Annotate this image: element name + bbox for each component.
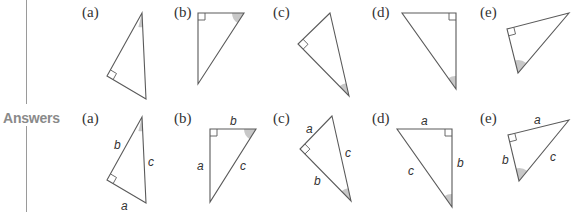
answer-d-side-c: c (408, 164, 414, 178)
answer-e-side-c: c (550, 150, 556, 164)
answer-c-side-a: a (306, 122, 313, 136)
triangle-question-e (507, 13, 569, 73)
answer-d-side-b: b (457, 156, 464, 170)
triangle-question-b (198, 13, 244, 84)
triangle-question-d (402, 13, 456, 89)
answer-c-side-b: b (314, 174, 321, 188)
triangle-answer-b (210, 129, 256, 202)
triangle-question-a (107, 13, 146, 99)
triangle-question-c (298, 13, 349, 96)
triangle-answer-e (508, 120, 569, 181)
answer-e-side-b: b (502, 153, 509, 167)
answer-a-side-c: c (148, 155, 154, 169)
triangle-answer-d (397, 129, 452, 207)
answer-c-side-c: c (345, 146, 351, 160)
answer-b-side-b: b (230, 114, 237, 128)
triangle-figures: b c a b a c a c b a b c a b c (0, 0, 585, 222)
answer-e-side-a: a (534, 113, 541, 127)
answer-d-side-a: a (421, 114, 428, 128)
answer-b-side-a: a (197, 159, 204, 173)
answer-a-side-a: a (121, 199, 128, 213)
answer-b-side-c: c (240, 159, 246, 173)
triangle-answer-a (107, 117, 146, 203)
answer-a-side-b: b (114, 138, 121, 152)
